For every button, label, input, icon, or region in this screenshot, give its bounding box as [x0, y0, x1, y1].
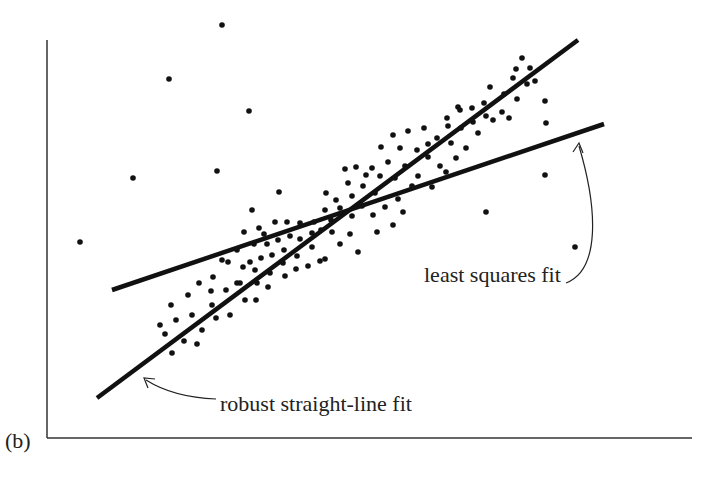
robust-arrowhead: [144, 378, 155, 388]
data-point: [421, 125, 427, 131]
data-point: [469, 105, 475, 111]
data-point: [532, 78, 538, 84]
data-point: [169, 350, 175, 356]
data-point: [281, 247, 287, 253]
data-point: [353, 164, 359, 170]
data-point: [305, 263, 311, 269]
data-point: [453, 155, 459, 161]
data-point: [377, 173, 383, 179]
least-squares-label: least squares fit: [424, 262, 561, 288]
data-point: [481, 100, 487, 106]
data-point: [272, 219, 278, 225]
data-point: [434, 135, 440, 141]
data-point: [284, 219, 290, 225]
data-point: [370, 212, 376, 218]
data-point: [527, 65, 533, 71]
data-point: [294, 253, 300, 259]
outlier-point: [214, 168, 220, 174]
data-point: [337, 241, 343, 247]
data-point: [345, 180, 351, 186]
data-point: [242, 297, 248, 303]
data-point: [209, 302, 215, 308]
data-point: [499, 109, 505, 115]
data-point: [181, 338, 187, 344]
panel-label: (b): [5, 428, 31, 454]
data-point: [506, 115, 512, 121]
data-point: [513, 66, 519, 72]
data-point: [275, 237, 281, 243]
data-point: [333, 197, 339, 203]
data-point: [189, 312, 195, 318]
data-point: [349, 213, 355, 219]
fit-lines: [97, 40, 604, 398]
data-point: [293, 266, 299, 272]
data-point: [309, 244, 315, 250]
robust-fit-label: robust straight-line fit: [220, 391, 412, 417]
data-point: [405, 128, 411, 134]
data-point: [323, 190, 329, 196]
outlier-point: [130, 175, 136, 181]
data-point: [437, 163, 443, 169]
data-point: [219, 257, 225, 263]
data-point: [337, 205, 343, 211]
data-point: [185, 292, 191, 298]
data-point: [463, 145, 469, 151]
data-point: [322, 256, 328, 262]
data-point: [414, 147, 420, 153]
outlier-point: [276, 189, 282, 195]
data-point: [317, 258, 323, 264]
data-point: [374, 229, 380, 235]
data-point: [265, 284, 271, 290]
data-point: [347, 231, 353, 237]
data-point: [269, 252, 275, 258]
data-point: [382, 204, 388, 210]
data-point: [247, 259, 253, 265]
least-squares-arrowhead: [573, 143, 583, 153]
robust-arrow: [146, 380, 216, 399]
data-point: [355, 249, 361, 255]
data-point: [213, 315, 219, 321]
data-point: [225, 259, 231, 265]
data-point: [349, 193, 355, 199]
data-point: [395, 196, 401, 202]
data-point: [390, 222, 396, 228]
data-point: [282, 273, 288, 279]
outlier-point: [542, 172, 548, 178]
data-point: [363, 172, 369, 178]
data-point: [390, 132, 396, 138]
outlier-point: [77, 239, 83, 245]
data-point: [445, 123, 451, 129]
scatter-points: [77, 22, 578, 356]
data-point: [162, 331, 168, 337]
outlier-point: [219, 22, 225, 28]
data-point: [256, 225, 262, 231]
chart-canvas: [0, 0, 710, 497]
least-squares-arrow: [566, 146, 593, 283]
data-point: [194, 341, 200, 347]
data-point: [378, 144, 384, 150]
data-point: [400, 209, 406, 215]
data-point: [252, 267, 258, 273]
data-point: [397, 145, 403, 151]
data-point: [199, 327, 205, 333]
robust-straight-line-fit-line: [97, 40, 578, 398]
data-point: [457, 107, 463, 113]
data-point: [475, 130, 481, 136]
data-point: [444, 115, 450, 121]
data-point: [329, 229, 335, 235]
data-point: [173, 317, 179, 323]
data-point: [342, 166, 348, 172]
data-point: [425, 141, 431, 147]
outlier-point: [166, 76, 172, 82]
data-point: [210, 274, 216, 280]
data-point: [448, 140, 454, 146]
data-point: [483, 113, 489, 119]
data-point: [208, 288, 214, 294]
outlier-point: [483, 209, 489, 215]
data-point: [287, 233, 293, 239]
data-point: [519, 55, 525, 61]
data-point: [258, 255, 264, 261]
data-point: [487, 84, 493, 90]
outlier-point: [246, 108, 252, 114]
data-point: [542, 98, 548, 104]
